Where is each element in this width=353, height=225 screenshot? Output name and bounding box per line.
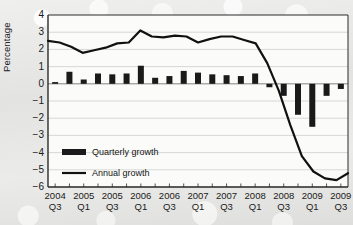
bar: [95, 73, 101, 83]
bar: [109, 74, 115, 83]
bar: [281, 84, 287, 96]
bar: [66, 72, 72, 84]
bar: [52, 82, 58, 84]
legend-swatch-quarterly-growth: [62, 149, 86, 155]
bar: [152, 78, 158, 84]
chart-figure: Percentage 43210−1−2−3−4−5−6 2004Q32005Q…: [0, 0, 353, 225]
bar: [195, 73, 201, 84]
bar: [238, 76, 244, 84]
bar: [138, 66, 144, 84]
bar: [252, 73, 258, 83]
bar: [224, 75, 230, 84]
bar: [124, 73, 130, 83]
bar: [309, 84, 315, 127]
legend-label-quarterly-growth: Quarterly growth: [92, 147, 159, 157]
bar: [209, 74, 215, 83]
bar: [181, 71, 187, 84]
bar: [81, 80, 87, 84]
legend-label-annual-growth: Annual growth: [92, 168, 150, 178]
plot-area: [0, 0, 353, 225]
bar: [295, 84, 301, 115]
bar: [266, 84, 272, 87]
bar: [338, 84, 344, 89]
bar: [166, 76, 172, 84]
bar: [324, 84, 330, 96]
